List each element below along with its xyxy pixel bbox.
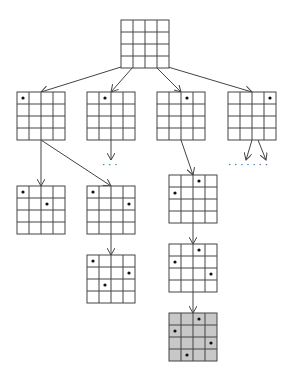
queen-marker-icon (127, 271, 130, 274)
queen-marker-icon (268, 96, 271, 99)
tree-edge-arrow (258, 140, 266, 160)
queen-marker-icon (21, 96, 24, 99)
queen-marker-icon (197, 248, 200, 251)
tree-edge-arrow (168, 67, 252, 92)
board-state (87, 92, 135, 140)
queen-marker-icon (127, 202, 130, 205)
tree-edge-arrow (246, 140, 252, 160)
queen-marker-icon (45, 202, 48, 205)
queen-marker-icon (91, 259, 94, 262)
board-state (228, 92, 276, 140)
board-state (157, 92, 205, 140)
pruned-branch-ellipsis: · · · · · · · (228, 159, 268, 170)
tree-edge-arrow (156, 67, 181, 92)
queen-marker-icon (185, 353, 188, 356)
board-state (87, 186, 135, 234)
board-state (17, 186, 65, 234)
queen-marker-icon (173, 260, 176, 263)
pruned-branch-ellipsis: · · · (102, 159, 118, 170)
queen-marker-icon (197, 179, 200, 182)
queen-marker-icon (103, 283, 106, 286)
board-state (17, 92, 65, 140)
solution-board (169, 313, 217, 361)
queen-marker-icon (173, 191, 176, 194)
queen-marker-icon (91, 190, 94, 193)
queen-marker-icon (173, 329, 176, 332)
tree-edge-arrow (181, 140, 193, 175)
queen-marker-icon (209, 272, 212, 275)
tree-edge-arrow (111, 67, 133, 92)
search-tree-diagram: · · ·· · · · · · · (0, 0, 290, 383)
queen-marker-icon (197, 317, 200, 320)
queen-marker-icon (103, 96, 106, 99)
board-state (121, 20, 169, 68)
tree-edge-arrow (41, 140, 111, 186)
queen-marker-icon (209, 341, 212, 344)
board-state (169, 175, 217, 223)
board-state (169, 244, 217, 292)
queen-marker-icon (21, 190, 24, 193)
tree-nodes (17, 20, 276, 361)
queen-marker-icon (185, 96, 188, 99)
tree-edge-arrow (41, 67, 121, 92)
pruned-branch-ellipses: · · ·· · · · · · · (102, 159, 268, 170)
board-state (87, 255, 135, 303)
